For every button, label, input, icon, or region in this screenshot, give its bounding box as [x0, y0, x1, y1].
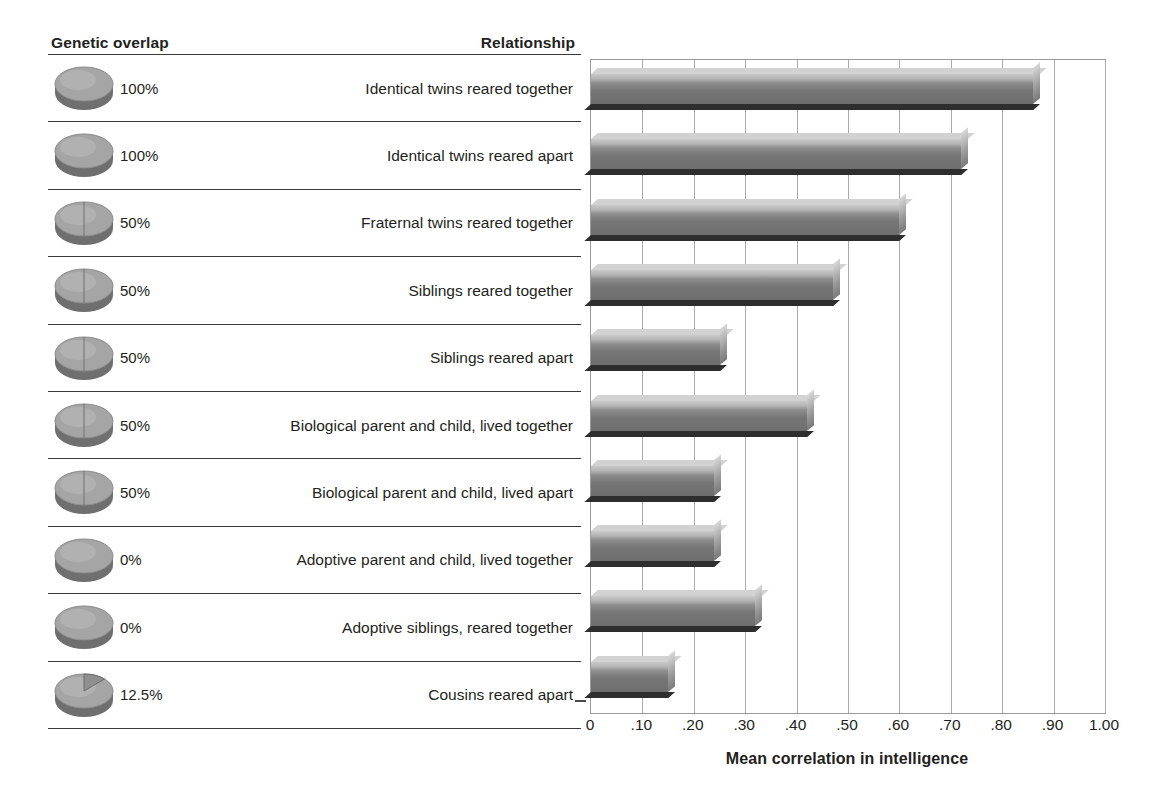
relationship-label: Adoptive parent and child, lived togethe…	[186, 551, 581, 568]
bar-top-face	[591, 329, 733, 335]
genetic-overlap-percent: 50%	[120, 485, 186, 500]
genetic-overlap-cell	[48, 122, 120, 188]
bar[interactable]	[591, 531, 714, 561]
table-row: 50%Siblings reared together	[48, 256, 581, 323]
relationship-table: Genetic overlap Relationship 100%Identic…	[48, 24, 581, 714]
bar[interactable]	[591, 74, 1033, 104]
bar-row	[591, 191, 1105, 256]
bar[interactable]	[591, 139, 961, 169]
plot-area	[590, 59, 1106, 714]
bar-row	[591, 387, 1105, 452]
pie-disc-12-5-icon	[54, 671, 114, 719]
x-axis-tick: .20	[682, 716, 704, 734]
pie-disc-50-icon	[54, 401, 114, 449]
x-axis-tick: .50	[836, 716, 858, 734]
genetic-overlap-percent: 50%	[120, 283, 186, 298]
bar-shadow	[584, 692, 675, 698]
x-axis-tick: .90	[1042, 716, 1064, 734]
genetic-overlap-cell	[48, 325, 120, 391]
bar-end-cap	[714, 454, 721, 496]
genetic-overlap-cell	[48, 594, 120, 660]
relationship-label: Biological parent and child, lived toget…	[186, 417, 581, 434]
bar-row	[591, 517, 1105, 582]
bar-row	[591, 256, 1105, 321]
pie-disc-50-icon	[54, 266, 114, 314]
bar-end-cap	[668, 650, 675, 692]
bar-shadow	[584, 104, 1040, 110]
bar-shadow	[584, 496, 721, 502]
genetic-overlap-cell	[48, 527, 120, 593]
column-header-relationship: Relationship	[481, 34, 575, 52]
pie-disc-50-icon	[54, 334, 114, 382]
axis-left-dash	[575, 700, 586, 702]
bar-shadow	[584, 169, 968, 175]
bar-top-face	[591, 199, 913, 205]
bar-top-face	[591, 133, 975, 139]
x-axis-tick: .10	[631, 716, 653, 734]
bar-end-cap	[807, 389, 814, 431]
genetic-overlap-percent: 12.5%	[120, 687, 186, 702]
bar[interactable]	[591, 596, 755, 626]
x-axis-tick: .60	[888, 716, 910, 734]
bar-top-face	[591, 264, 846, 270]
genetic-overlap-cell	[48, 257, 120, 323]
bar[interactable]	[591, 270, 833, 300]
x-axis-tick-labels: 0.10.20.30.40.50.60.70.80.901.00	[590, 716, 1104, 740]
bar-row	[591, 125, 1105, 190]
x-axis-tick: 1.00	[1089, 716, 1119, 734]
relationship-label: Adoptive siblings, reared together	[186, 619, 581, 636]
table-row: 50%Biological parent and child, lived ap…	[48, 458, 581, 525]
figure-root: Genetic overlap Relationship 100%Identic…	[0, 0, 1159, 806]
bar[interactable]	[591, 401, 807, 431]
pie-disc-0-icon	[54, 603, 114, 651]
bar-end-cap	[899, 193, 906, 235]
relationship-label: Siblings reared apart	[186, 349, 581, 366]
bar-shadow	[584, 626, 762, 632]
bar-row	[591, 60, 1105, 125]
x-axis-tick: .30	[733, 716, 755, 734]
relationship-label: Siblings reared together	[186, 282, 581, 299]
genetic-overlap-percent: 50%	[120, 215, 186, 230]
relationship-label: Cousins reared apart	[186, 686, 581, 703]
bar-end-cap	[755, 585, 762, 627]
relationship-label: Biological parent and child, lived apart	[186, 484, 581, 501]
bar-row	[591, 452, 1105, 517]
bar-row	[591, 582, 1105, 647]
bar-end-cap	[961, 127, 968, 169]
bar-end-cap	[714, 519, 721, 561]
bar-top-face	[591, 460, 728, 466]
table-row: 0%Adoptive siblings, reared together	[48, 593, 581, 660]
table-row: 100%Identical twins reared together	[48, 54, 581, 121]
genetic-overlap-cell	[48, 459, 120, 525]
x-axis-tick: .80	[990, 716, 1012, 734]
bar-top-face	[591, 590, 769, 596]
pie-disc-100-icon	[54, 64, 114, 112]
bar[interactable]	[591, 205, 899, 235]
bar[interactable]	[591, 335, 720, 365]
relationship-label: Identical twins reared apart	[186, 147, 581, 164]
pie-disc-100-icon	[54, 131, 114, 179]
table-row: 50%Biological parent and child, lived to…	[48, 391, 581, 458]
genetic-overlap-cell	[48, 55, 120, 121]
x-axis-tick: .70	[939, 716, 961, 734]
table-row: 50%Siblings reared apart	[48, 324, 581, 391]
genetic-overlap-cell	[48, 392, 120, 458]
bar[interactable]	[591, 466, 714, 496]
bar-end-cap	[720, 323, 727, 365]
bar[interactable]	[591, 662, 668, 692]
genetic-overlap-percent: 50%	[120, 418, 186, 433]
relationship-label: Identical twins reared together	[186, 80, 581, 97]
table-row: 50%Fraternal twins reared together	[48, 189, 581, 256]
bar-shadow	[584, 300, 839, 306]
genetic-overlap-percent: 100%	[120, 148, 186, 163]
gridline	[1105, 60, 1106, 713]
bar-row	[591, 321, 1105, 386]
genetic-overlap-percent: 50%	[120, 350, 186, 365]
pie-disc-0-icon	[54, 536, 114, 584]
pie-disc-50-icon	[54, 199, 114, 247]
table-column-headers: Genetic overlap Relationship	[48, 24, 581, 54]
bar-top-face	[591, 395, 821, 401]
x-axis-tick: .40	[785, 716, 807, 734]
bar-shadow	[584, 561, 721, 567]
bar-end-cap	[1033, 62, 1040, 104]
